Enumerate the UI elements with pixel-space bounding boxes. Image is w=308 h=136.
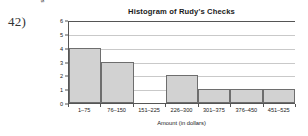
bar-slot	[101, 21, 133, 103]
x-tick-label: 226–300	[165, 107, 197, 113]
y-axis: 0123456	[0, 21, 68, 104]
y-tick-label: 4	[60, 46, 63, 52]
y-axis-label-text: Number of Checks	[38, 0, 48, 21]
x-axis: 1–7576–150151–225226–300301–375376–45045…	[68, 104, 295, 116]
x-tick-label: 301–375	[198, 107, 230, 113]
bar	[101, 62, 133, 104]
bar-slot	[230, 21, 262, 103]
y-tick-label: 1	[60, 87, 63, 93]
plot-area	[68, 21, 295, 104]
bar-series	[69, 21, 295, 103]
histogram-figure: 42) Histogram of Rudy's Checks 0123456 N…	[0, 0, 308, 136]
x-tick-label: 76–150	[100, 107, 132, 113]
bar-slot	[134, 21, 166, 103]
x-tick-label: 376–450	[230, 107, 262, 113]
bar	[230, 89, 262, 103]
bar	[263, 89, 295, 103]
bar-slot	[69, 21, 101, 103]
chart-title: Histogram of Rudy's Checks	[68, 7, 295, 16]
bar	[198, 89, 230, 103]
y-tick-label: 3	[60, 60, 63, 66]
bar-slot	[166, 21, 198, 103]
y-tick-label: 2	[60, 73, 63, 79]
x-tick-label: 151–225	[133, 107, 165, 113]
bar-slot	[198, 21, 230, 103]
x-tick-label: 1–75	[68, 107, 100, 113]
bar	[166, 75, 198, 103]
x-tick-mark	[295, 104, 296, 107]
x-tick-label: 451–525	[263, 107, 295, 113]
x-tick-labels: 1–7576–150151–225226–300301–375376–45045…	[68, 107, 295, 113]
y-tick-label: 6	[60, 18, 63, 24]
y-tick-label: 0	[60, 101, 63, 107]
bar-slot	[263, 21, 295, 103]
x-axis-label: Amount (in dollars)	[68, 120, 295, 126]
bar	[69, 48, 101, 103]
y-axis-label: Number of Checks	[38, 0, 48, 21]
y-tick-label: 5	[60, 32, 63, 38]
